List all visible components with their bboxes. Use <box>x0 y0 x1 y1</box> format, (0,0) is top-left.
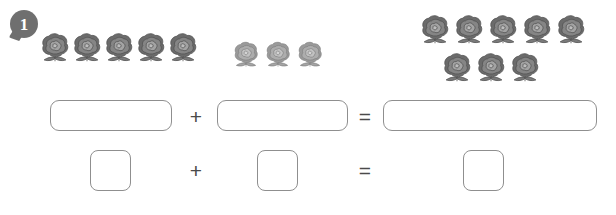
rose-icon-svg <box>38 30 72 64</box>
plus-operator: + <box>186 106 206 127</box>
rose-icon-svg <box>263 39 293 69</box>
rose-icon <box>452 12 486 46</box>
rose-icon <box>520 12 554 46</box>
exercise-number-badge: 1 <box>10 10 38 38</box>
rose-icon-svg <box>418 12 452 46</box>
rose-icon <box>134 30 168 64</box>
rose-icon <box>38 30 72 64</box>
rose-icon <box>474 50 508 84</box>
equals-operator: = <box>355 106 375 127</box>
rose-icon-svg <box>134 30 168 64</box>
rose-icon <box>508 50 542 84</box>
exercise-number-label: 1 <box>10 10 38 38</box>
rose-icon-svg <box>508 50 542 84</box>
rose-icon <box>166 30 200 64</box>
plus-operator: + <box>186 160 206 181</box>
rose-icon <box>263 39 293 69</box>
rose-icon <box>440 50 474 84</box>
rose-icon <box>418 12 452 46</box>
answer-box-sum[interactable] <box>383 100 597 131</box>
answer-box-addend-1[interactable] <box>50 100 172 131</box>
rose-icon <box>70 30 104 64</box>
equals-operator: = <box>355 160 375 181</box>
rose-icon-svg <box>452 12 486 46</box>
rose-icon-svg <box>102 30 136 64</box>
rose-icon-svg <box>70 30 104 64</box>
rose-icon <box>231 39 261 69</box>
rose-icon-svg <box>295 39 325 69</box>
answer-box-addend-2[interactable] <box>217 100 348 131</box>
addition-worksheet: 1 <box>0 0 616 215</box>
rose-icon <box>486 12 520 46</box>
number-box-addend-1[interactable] <box>90 150 131 191</box>
rose-icon-svg <box>166 30 200 64</box>
rose-icon <box>295 39 325 69</box>
number-box-addend-2[interactable] <box>257 150 298 191</box>
rose-icon-svg <box>520 12 554 46</box>
rose-icon <box>554 12 588 46</box>
rose-icon-svg <box>231 39 261 69</box>
rose-icon <box>102 30 136 64</box>
number-box-sum[interactable] <box>463 150 504 191</box>
rose-icon-svg <box>474 50 508 84</box>
rose-icon-svg <box>440 50 474 84</box>
rose-icon-svg <box>554 12 588 46</box>
rose-icon-svg <box>486 12 520 46</box>
